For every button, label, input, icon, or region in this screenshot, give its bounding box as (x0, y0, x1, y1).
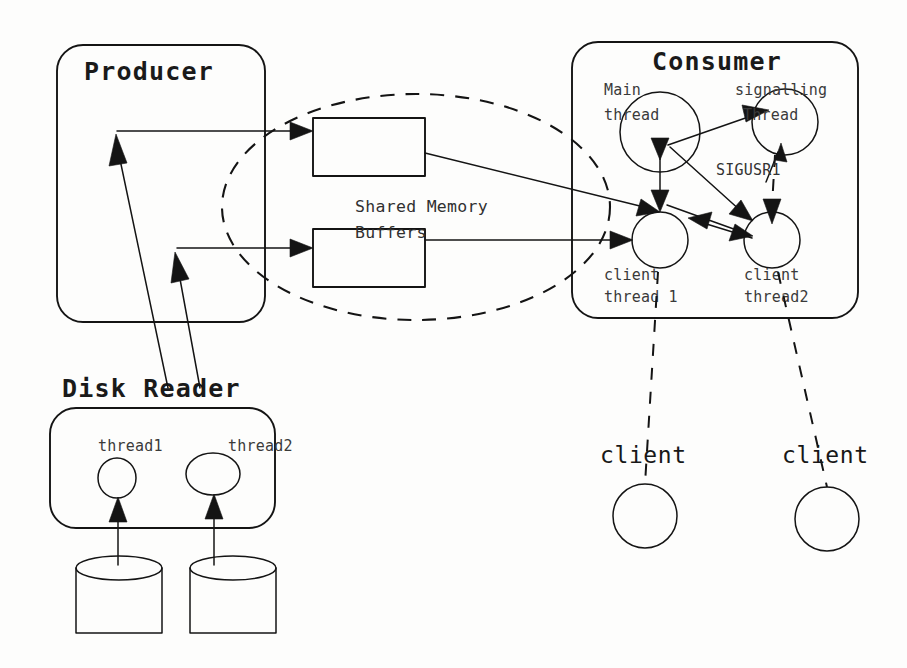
producer-group: Producer (57, 45, 265, 322)
client-thread-1-circle (632, 212, 688, 268)
arrow-diskreader-to-buffer-bottom (171, 239, 313, 388)
arrowhead-main-client1-mid (651, 138, 669, 160)
buffer-top (313, 118, 425, 176)
main-thread-label-line2: thread (604, 106, 659, 124)
sigusr1-label: SIGUSR1 (716, 161, 781, 179)
arrow-diskreader-to-buffer-top (109, 122, 313, 388)
disk-2-top (190, 556, 276, 580)
arrowhead-sigusr1 (763, 199, 781, 224)
signalling-thread-label-line1: signalling (735, 81, 827, 99)
signalling-thread-label-line2: Thread (743, 106, 798, 124)
client-thread-2-label-line1: client (744, 266, 799, 284)
arrowhead-disk2 (205, 494, 223, 519)
disk-reader-threads-group: thread1 thread2 (98, 437, 293, 498)
client-thread-2-label-line2: thread2 (744, 288, 809, 306)
disk-1-group (76, 556, 162, 633)
disk-2-group (190, 556, 276, 633)
disk-reader-title: Disk Reader (62, 374, 241, 403)
diagram-canvas: Producer Consumer Disk Reader Shared Mem… (0, 0, 907, 668)
arrowhead-buffer-bottom (610, 231, 633, 249)
producer-box (57, 45, 265, 322)
disk-reader-box (50, 408, 275, 528)
disk-1-top (76, 556, 162, 580)
disk-2-body (190, 568, 276, 633)
arrowhead-a (109, 134, 127, 166)
arrow-disk1-to-thread1 (109, 497, 127, 565)
arrowhead-b (171, 252, 189, 283)
arrow-path-main-client2 (670, 147, 742, 212)
shared-memory-label-line2: Buffers (355, 223, 427, 242)
disk-1-body (76, 568, 162, 633)
disk-thread-2-label: thread2 (228, 437, 293, 455)
client-2-group: client (782, 442, 869, 551)
arrowhead-disk1 (109, 497, 127, 522)
arrow-path-a (118, 150, 168, 388)
main-thread-label-line1: Main (604, 81, 641, 99)
client-thread-1-label-line1: client (604, 266, 659, 284)
shared-memory-label-line1: Shared Memory (355, 197, 488, 216)
arrowhead-signal-feedback (775, 143, 787, 162)
arrowhead-b-tip (290, 239, 313, 257)
disk-thread-1-label: thread1 (98, 437, 163, 455)
client-1-label: client (600, 442, 687, 468)
arrow-buffer-bottom-to-consumer (425, 231, 633, 249)
client-2-label: client (782, 442, 869, 468)
arrowhead-cross-client2 (729, 224, 753, 241)
consumer-title: Consumer (652, 47, 782, 76)
client-2-circle (795, 487, 859, 551)
arrow-main-to-client-thread-1 (651, 138, 669, 212)
consumer-thread-labels: Main thread signalling Thread client thr… (604, 81, 827, 306)
client-thread-1-label-line2: thread 1 (604, 288, 678, 306)
disk-thread-2-shape (186, 453, 240, 495)
client-1-group: client (600, 442, 687, 548)
disk-thread-1-shape (98, 458, 136, 498)
arrow-path-b (178, 268, 200, 388)
arrow-disk2-to-thread2 (205, 494, 223, 565)
shared-memory-group: Shared Memory Buffers (313, 118, 488, 287)
diagram-root: Producer Consumer Disk Reader Shared Mem… (0, 0, 907, 668)
client-1-circle (613, 484, 677, 548)
producer-title: Producer (84, 57, 214, 86)
arrowhead-a-tip (290, 122, 313, 140)
